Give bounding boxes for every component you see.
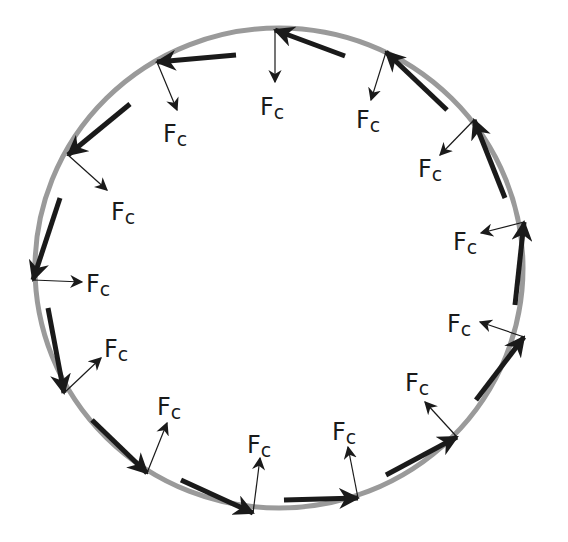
velocity-arrow [92, 420, 147, 473]
velocity-arrow [284, 498, 358, 500]
centripetal-force-arrow [64, 358, 101, 393]
force-label: Fc [111, 198, 135, 228]
force-label: Fc [405, 369, 429, 399]
centripetal-force-arrow [68, 155, 107, 190]
velocity-arrow [386, 437, 457, 475]
force-label: Fc [86, 270, 110, 300]
force-label: Fc [157, 393, 181, 423]
force-label: Fc [356, 106, 380, 136]
force-label: Fc [332, 418, 356, 448]
centripetal-force-arrow [371, 52, 386, 100]
circular-motion-diagram: FcFcFcFcFcFcFcFcFcFcFcFcFc [0, 0, 568, 542]
velocity-arrow [386, 52, 447, 110]
force-label: Fc [418, 155, 442, 185]
force-label: Fc [453, 228, 477, 258]
velocity-arrow [474, 120, 505, 198]
force-label: Fc [163, 120, 187, 150]
centripetal-force-arrow [157, 62, 177, 110]
force-label: Fc [247, 431, 271, 461]
velocity-arrow [476, 337, 524, 400]
force-label: Fc [104, 335, 128, 365]
centripetal-force-arrow [440, 120, 474, 155]
centripetal-force-arrow [425, 402, 457, 437]
force-label: Fc [447, 310, 471, 340]
force-label: Fc [260, 93, 284, 123]
centripetal-force-arrow [348, 447, 358, 498]
velocity-arrow [181, 480, 253, 513]
centripetal-force-arrow [147, 423, 167, 473]
centripetal-force-arrow [33, 280, 82, 282]
force-labels: FcFcFcFcFcFcFcFcFcFcFcFcFc [86, 93, 477, 461]
